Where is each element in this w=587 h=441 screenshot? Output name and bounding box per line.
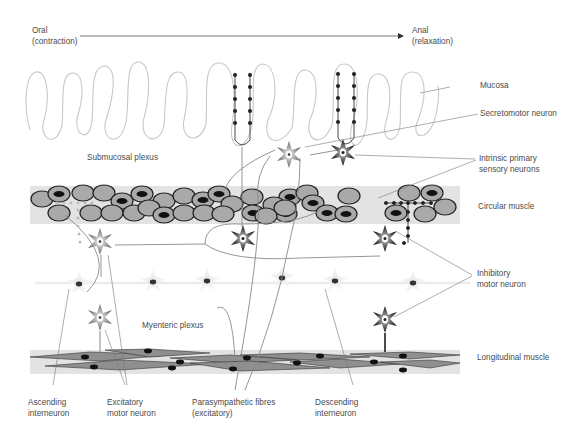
excitatory-motor-label: Excitatory motor neuron — [107, 398, 156, 419]
secretomotor-label: Secretomotor neuron — [480, 109, 557, 120]
excitatory-line1: Excitatory — [107, 398, 156, 409]
oral-label: Oral (contraction) — [32, 26, 78, 47]
mucosa-label: Mucosa — [480, 81, 509, 92]
ipan-label: Intrinsic primary sensory neurons — [479, 154, 540, 175]
enteric-nervous-system-diagram — [0, 0, 587, 441]
parasym-line1: Parasympathetic fibres — [192, 398, 275, 409]
ipan-neuron-submucosal — [231, 225, 255, 252]
descending-line1: Descending — [315, 398, 358, 409]
inhibitory-neuron-lower — [373, 306, 397, 352]
anal-sub-text: (relaxation) — [412, 37, 453, 48]
ascending-interneuron-label: Ascending interneuron — [28, 398, 69, 419]
descending-line2: interneuron — [315, 409, 358, 420]
excitatory-neuron-upper — [88, 228, 112, 255]
inhibitory-neuron-upper — [373, 225, 397, 252]
secretomotor-neuron — [277, 141, 301, 168]
inhibitory-line1: Inhibitory — [477, 269, 526, 280]
circular-muscle-label: Circular muscle — [478, 202, 534, 213]
anal-label: Anal (relaxation) — [412, 26, 453, 47]
ipan-line2: sensory neurons — [479, 165, 540, 176]
ipan-line1: Intrinsic primary — [479, 154, 540, 165]
descending-interneuron-label: Descending interneuron — [315, 398, 358, 419]
ascending-line1: Ascending — [28, 398, 69, 409]
anal-text: Anal — [412, 26, 453, 37]
excitatory-neuron-lower — [88, 304, 112, 352]
oral-text: Oral — [32, 26, 78, 37]
secretomotor-fibres — [233, 72, 355, 145]
parasym-line2: (excitatory) — [192, 409, 275, 420]
ipan-neuron-upper — [331, 139, 355, 166]
inhibitory-line2: motor neuron — [477, 280, 526, 291]
submucosal-plexus-label: Submucosal plexus — [87, 153, 158, 164]
excitatory-line2: motor neuron — [107, 409, 156, 420]
leader-lines — [53, 87, 478, 385]
direction-arrow — [80, 33, 404, 39]
ascending-line2: interneuron — [28, 409, 69, 420]
oral-sub-text: (contraction) — [32, 37, 78, 48]
myenteric-plexus-label: Myenteric plexus — [142, 321, 203, 332]
inhibitory-label: Inhibitory motor neuron — [477, 269, 526, 290]
longitudinal-muscle-label: Longitudinal muscle — [477, 353, 549, 364]
parasympathetic-label: Parasympathetic fibres (excitatory) — [192, 398, 275, 419]
